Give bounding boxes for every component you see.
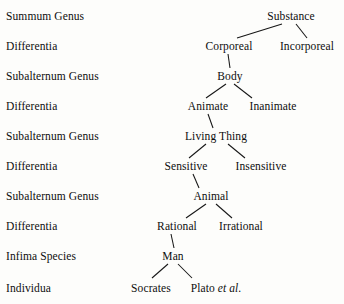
category-label: Subalternum Genus [6, 70, 99, 82]
category-label: Individua [6, 282, 51, 294]
edge-substance-to-corporeal [237, 24, 282, 38]
edge-living-thing-to-insensitive [228, 144, 245, 158]
category-label: Differentia [6, 100, 57, 112]
tree-node-substance: Substance [267, 10, 315, 22]
tree-node-body: Body [217, 70, 242, 82]
tree-node-animal: Animal [193, 190, 228, 202]
tree-node-animate: Animate [188, 100, 228, 112]
edge-body-to-animate [206, 84, 226, 98]
tree-node-plato: Plato et al. [191, 282, 242, 294]
tree-node-man: Man [162, 250, 183, 262]
category-label: Subalternum Genus [6, 190, 99, 202]
edge-animate-to-living-thing [208, 114, 213, 128]
category-label: Summum Genus [6, 10, 84, 22]
porphyrian-tree-diagram: Summum GenusDifferentiaSubalternum Genus… [0, 0, 344, 304]
tree-node-inanimate: Inanimate [250, 100, 297, 112]
edge-man-to-socrates [152, 264, 168, 278]
edge-living-thing-to-sensitive [189, 144, 206, 158]
edge-corporeal-to-body [228, 54, 230, 68]
tree-node-label-italic: et al. [218, 282, 242, 294]
tree-node-rational: Rational [157, 220, 197, 232]
tree-node-insensitive: Insensitive [236, 160, 287, 172]
tree-node-sensitive: Sensitive [164, 160, 207, 172]
category-label: Differentia [6, 160, 57, 172]
tree-node-corporeal: Corporeal [206, 40, 253, 52]
category-label: Differentia [6, 220, 57, 232]
edge-body-to-inanimate [234, 84, 252, 98]
edge-substance-to-incorporeal [296, 24, 307, 38]
tree-node-living-thing: Living Thing [185, 130, 247, 142]
category-label: Infima Species [6, 250, 76, 262]
category-label: Subalternum Genus [6, 130, 99, 142]
tree-node-label: Plato [191, 282, 218, 294]
edge-man-to-plato [178, 264, 192, 278]
tree-node-incorporeal: Incorporeal [280, 40, 334, 52]
category-label: Differentia [6, 40, 57, 52]
tree-node-irrational: Irrational [219, 220, 263, 232]
edge-rational-to-man [171, 234, 174, 248]
edge-animal-to-irrational [216, 204, 232, 218]
tree-node-socrates: Socrates [131, 282, 171, 294]
edge-sensitive-to-animal [193, 174, 199, 188]
edge-animal-to-rational [186, 204, 206, 218]
